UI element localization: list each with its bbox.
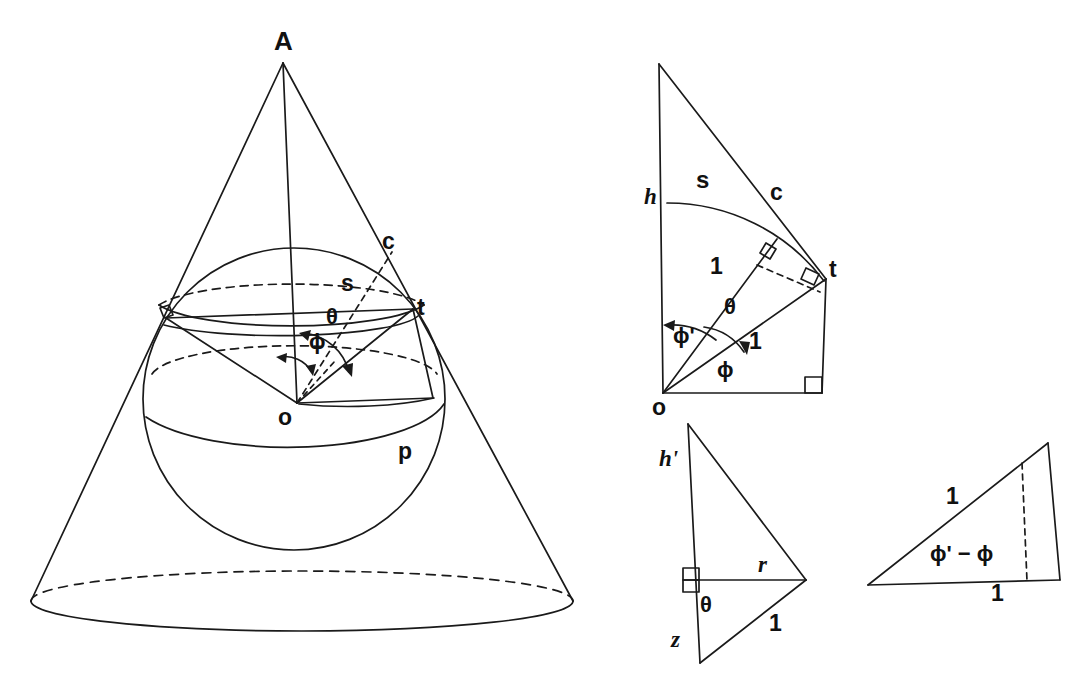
label-s-sector: s (696, 168, 709, 192)
label-theta-sector: θ (724, 296, 736, 318)
pd-dashed-drop (1022, 463, 1027, 581)
sector-dashed-chord (757, 265, 820, 292)
label-theta-main: θ (326, 306, 338, 328)
label-point-c: c (382, 230, 395, 253)
cone-axis (283, 63, 297, 403)
label-phi-sector: ϕ (717, 359, 734, 381)
height-radius-lines (683, 424, 806, 663)
label-one-base-pd: 1 (991, 582, 1004, 605)
label-h-prime: h' (659, 447, 678, 470)
label-one-hr: 1 (769, 612, 782, 635)
hr-right-angle-upper (683, 568, 699, 580)
label-one-lower-sector: 1 (749, 330, 762, 353)
label-phi-main: ϕ (309, 331, 326, 353)
figure-root: A c s t θ ϕ o p h s c t 1 θ 1 ϕ' ϕ o h' … (0, 0, 1083, 691)
label-h: h (644, 185, 657, 208)
pd-right-edge (1048, 443, 1060, 580)
tangent-circle-front (159, 305, 424, 326)
sector-left-edge (659, 64, 663, 393)
hr-top-hypotenuse (688, 424, 806, 580)
cone-outline (31, 63, 573, 631)
theta-arc-sector (704, 327, 750, 355)
right-angle-square-base (805, 377, 822, 393)
cone-left-slant (31, 63, 283, 601)
label-theta-hr: θ (700, 594, 712, 616)
cone-base-front (31, 601, 573, 631)
label-r: r (758, 553, 767, 576)
label-z: z (671, 628, 680, 651)
sector-unit-arc (667, 203, 824, 281)
label-one-upper-sector: 1 (710, 255, 723, 278)
label-point-t: t (417, 296, 425, 319)
sector-right-edge (822, 279, 826, 393)
sector-hypotenuse (659, 64, 826, 279)
label-center-o: o (278, 406, 292, 429)
label-c-sector: c (770, 181, 783, 204)
label-arc-s: s (341, 272, 354, 295)
label-phi-prime-sector: ϕ' (673, 325, 695, 347)
pd-base (868, 580, 1060, 585)
cone-base-back (31, 571, 573, 601)
label-one-slant-pd: 1 (946, 485, 959, 508)
figure-canvas (0, 0, 1083, 691)
label-t-sector: t (829, 258, 837, 281)
label-point-p: p (398, 440, 412, 463)
cone-right-slant (283, 63, 573, 601)
dashed-o-phi (297, 361, 335, 403)
hr-left-edge (688, 424, 700, 663)
label-phi-diff: ϕ' − ϕ (930, 543, 993, 565)
line-o-left-tangent (166, 318, 297, 403)
label-apex-A: A (274, 28, 293, 54)
hr-bottom-hypotenuse (700, 580, 806, 663)
label-o-sector: o (652, 396, 666, 419)
chord-left-t (166, 309, 413, 318)
